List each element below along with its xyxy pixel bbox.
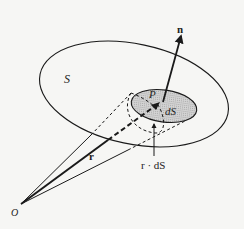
- label-r-dot-ds: r · dS: [141, 159, 165, 171]
- cone-edge-upper: [21, 135, 91, 204]
- label-normal-n: n: [177, 23, 183, 35]
- label-point-p: P: [148, 88, 156, 100]
- label-vector-r: r: [89, 150, 94, 162]
- label-ds: dS: [165, 105, 177, 117]
- position-vector-r-dashed: [108, 106, 155, 140]
- solid-angle-diagram: S P dS n r O r · dS: [0, 0, 244, 229]
- label-surface-s: S: [64, 72, 70, 86]
- cone-edge-lower: [21, 150, 128, 204]
- position-vector-r: [21, 140, 108, 204]
- label-origin-o: O: [11, 207, 18, 218]
- surface-s-outline: [30, 25, 239, 163]
